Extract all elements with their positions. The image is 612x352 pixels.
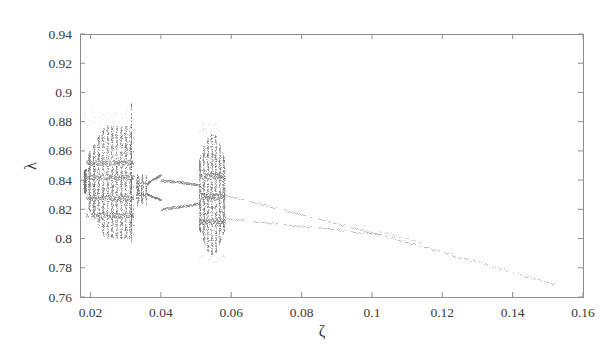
x-tick-label: 0.08 bbox=[290, 305, 314, 320]
y-tick-label: 0.82 bbox=[48, 202, 72, 217]
y-tick-label: 0.92 bbox=[48, 56, 72, 71]
y-tick-label: 0.8 bbox=[55, 231, 72, 246]
x-tick-label: 0.14 bbox=[501, 305, 525, 320]
x-tick-label: 0.06 bbox=[219, 305, 243, 320]
x-tick-label: 0.12 bbox=[430, 305, 454, 320]
y-tick-label: 0.76 bbox=[48, 290, 72, 305]
plot-canvas: 0.020.040.060.080.10.120.140.160.760.780… bbox=[0, 0, 612, 352]
bifurcation-figure: 0.020.040.060.080.10.120.140.160.760.780… bbox=[0, 0, 612, 352]
x-tick-label: 0.1 bbox=[364, 305, 381, 320]
y-tick-label: 0.86 bbox=[48, 143, 72, 158]
x-tick-label: 0.02 bbox=[79, 305, 103, 320]
y-axis-title: λ bbox=[22, 162, 39, 170]
x-tick-label: 0.04 bbox=[149, 305, 173, 320]
y-tick-label: 0.84 bbox=[48, 173, 72, 188]
x-axis-title: ζ bbox=[319, 322, 326, 340]
y-tick-label: 0.88 bbox=[48, 114, 72, 129]
y-tick-label: 0.94 bbox=[48, 27, 72, 42]
x-tick-label: 0.16 bbox=[571, 305, 595, 320]
y-tick-label: 0.9 bbox=[55, 85, 72, 100]
y-tick-label: 0.78 bbox=[48, 260, 72, 275]
